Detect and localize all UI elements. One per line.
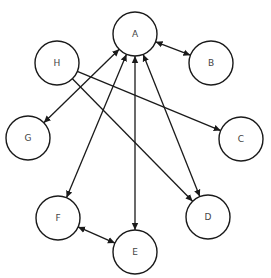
edge-f-e (78, 227, 115, 243)
node-b: B (189, 41, 233, 85)
node-d: D (186, 195, 230, 239)
node-f: F (36, 196, 80, 240)
node-label: A (132, 29, 139, 39)
node-e: E (113, 230, 157, 274)
node-label: C (238, 134, 244, 144)
node-label: G (25, 133, 32, 143)
edge-a-b (156, 42, 191, 55)
node-label: H (54, 58, 61, 68)
node-h: H (35, 41, 79, 85)
graph-canvas: ABHGCFDE (0, 0, 271, 278)
edge-a-d (143, 54, 200, 196)
node-label: B (208, 58, 214, 68)
node-g: G (6, 116, 50, 160)
node-label: E (132, 247, 138, 257)
node-a: A (113, 12, 157, 56)
node-label: D (205, 212, 212, 222)
node-label: F (55, 213, 60, 223)
node-c: C (219, 117, 263, 161)
